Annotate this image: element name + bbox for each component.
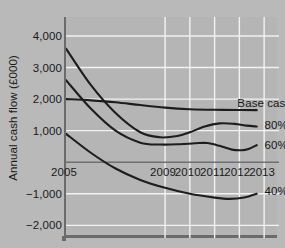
y-tick-label: 4,000	[33, 30, 62, 42]
y-axis-tick-labels: 4,0003,0002,0001,000−1,000−2,000	[14, 0, 62, 248]
series-label-60-: 60%	[265, 139, 285, 151]
x-tick-label: 2012	[224, 166, 250, 178]
y-tick-label: 1,000	[33, 125, 62, 137]
series-line-80-	[66, 49, 257, 138]
y-tick-label: −1,000	[26, 188, 62, 200]
chart-canvas	[66, 17, 279, 238]
x-tick-label: 2011	[200, 166, 225, 178]
x-tick-label: 2010	[175, 166, 201, 178]
y-tick-label: −2,000	[26, 219, 62, 231]
y-tick-label: 2,000	[33, 93, 62, 105]
series-label-base-case: Base case	[237, 97, 285, 109]
plot-area	[64, 17, 277, 238]
x-tick-label: 2013	[249, 166, 275, 178]
gridlines	[66, 17, 279, 238]
x-tick-label: 2005	[51, 166, 77, 178]
series-label-40-: 40%	[265, 185, 285, 197]
x-tick-label: 2009	[150, 166, 176, 178]
series-line-base-case	[66, 99, 257, 110]
series-label-80-: 80%	[265, 119, 285, 131]
axis-corner	[62, 236, 66, 241]
y-tick-label: 3,000	[33, 62, 62, 74]
chart-figure: Annual cash flow (£000) 4,0003,0002,0001…	[0, 0, 285, 248]
